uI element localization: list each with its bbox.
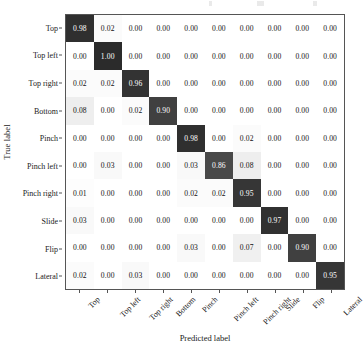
heatmap-cell-8-4: 0.03 bbox=[177, 234, 205, 261]
heatmap-cell-2-9: 0.00 bbox=[316, 70, 344, 97]
heatmap-cell-8-9: 0.00 bbox=[316, 234, 344, 261]
heatmap-cell-7-0: 0.03 bbox=[66, 207, 94, 234]
heatmap-cell-3-0: 0.08 bbox=[66, 97, 94, 124]
heatmap-cell-2-7: 0.00 bbox=[261, 70, 289, 97]
heatmap-cell-0-1: 0.02 bbox=[94, 15, 122, 42]
heatmap-cell-grid: 0.980.020.000.000.000.000.000.000.000.00… bbox=[66, 15, 344, 289]
heatmap-cell-8-2: 0.00 bbox=[122, 234, 150, 261]
heatmap-cell-0-3: 0.00 bbox=[149, 15, 177, 42]
heatmap-cell-1-2: 0.00 bbox=[122, 42, 150, 69]
heatmap-cell-0-5: 0.00 bbox=[205, 15, 233, 42]
heatmap-cell-1-1: 1.00 bbox=[94, 42, 122, 69]
x-tick-mark-7 bbox=[275, 290, 276, 293]
heatmap-cell-2-6: 0.00 bbox=[233, 70, 261, 97]
heatmap-cell-7-4: 0.00 bbox=[177, 207, 205, 234]
y-tick-mark-2 bbox=[59, 83, 62, 84]
heatmap-cell-1-0: 0.00 bbox=[66, 42, 94, 69]
heatmap-cell-5-7: 0.00 bbox=[261, 152, 289, 179]
heatmap-cell-5-3: 0.00 bbox=[149, 152, 177, 179]
heatmap-cell-4-3: 0.00 bbox=[149, 125, 177, 152]
x-tick-mark-2 bbox=[135, 290, 136, 293]
heatmap-cell-3-7: 0.00 bbox=[261, 97, 289, 124]
heatmap-cell-5-0: 0.00 bbox=[66, 152, 94, 179]
heatmap-cell-7-9: 0.00 bbox=[316, 207, 344, 234]
heatmap-cell-6-1: 0.00 bbox=[94, 179, 122, 206]
heatmap-cell-4-8: 0.00 bbox=[288, 125, 316, 152]
x-tick-mark-5 bbox=[219, 290, 220, 293]
heatmap-cell-6-6: 0.95 bbox=[233, 179, 261, 206]
heatmap-cell-9-1: 0.00 bbox=[94, 262, 122, 289]
x-tick-mark-4 bbox=[191, 290, 192, 293]
x-tick-mark-1 bbox=[107, 290, 108, 293]
heatmap-cell-4-1: 0.00 bbox=[94, 125, 122, 152]
heatmap-cell-4-0: 0.00 bbox=[66, 125, 94, 152]
x-tick-label-5: Pinch left bbox=[232, 295, 260, 323]
x-tick-label-8: Flip bbox=[311, 295, 326, 310]
heatmap-cell-6-4: 0.02 bbox=[177, 179, 205, 206]
y-tick-mark-1 bbox=[59, 55, 62, 56]
heatmap-cell-8-8: 0.90 bbox=[288, 234, 316, 261]
heatmap-cell-8-7: 0.00 bbox=[261, 234, 289, 261]
heatmap-cell-8-1: 0.00 bbox=[94, 234, 122, 261]
x-tick-mark-6 bbox=[247, 290, 248, 293]
y-tick-mark-4 bbox=[59, 138, 62, 139]
x-tick-label-1: Top left bbox=[118, 295, 142, 319]
heatmap-cell-7-6: 0.00 bbox=[233, 207, 261, 234]
cropped-title-artifact bbox=[195, 1, 345, 6]
heatmap-cell-1-6: 0.00 bbox=[233, 42, 261, 69]
heatmap-cell-3-8: 0.00 bbox=[288, 97, 316, 124]
heatmap-cell-9-2: 0.03 bbox=[122, 262, 150, 289]
heatmap-cell-0-6: 0.00 bbox=[233, 15, 261, 42]
heatmap-cell-2-3: 0.00 bbox=[149, 70, 177, 97]
heatmap-cell-9-8: 0.00 bbox=[288, 262, 316, 289]
y-tick-mark-8 bbox=[59, 248, 62, 249]
y-tick-mark-0 bbox=[59, 27, 62, 28]
x-tick-label-2: Top right bbox=[148, 295, 175, 322]
heatmap-cell-5-6: 0.08 bbox=[233, 152, 261, 179]
heatmap-cell-5-5: 0.86 bbox=[205, 152, 233, 179]
heatmap-cell-3-2: 0.02 bbox=[122, 97, 150, 124]
y-axis-tick-labels: TopTop leftTop rightBottomPinchPinch lef… bbox=[0, 14, 62, 290]
heatmap-cell-7-5: 0.00 bbox=[205, 207, 233, 234]
heatmap-cell-6-9: 0.00 bbox=[316, 179, 344, 206]
y-tick-mark-9 bbox=[59, 276, 62, 277]
heatmap-cell-9-7: 0.00 bbox=[261, 262, 289, 289]
heatmap-cell-5-4: 0.03 bbox=[177, 152, 205, 179]
heatmap-cell-1-7: 0.00 bbox=[261, 42, 289, 69]
heatmap-cell-7-1: 0.00 bbox=[94, 207, 122, 234]
heatmap-cell-9-5: 0.00 bbox=[205, 262, 233, 289]
heatmap-cell-7-2: 0.00 bbox=[122, 207, 150, 234]
heatmap-cell-1-3: 0.00 bbox=[149, 42, 177, 69]
heatmap-cell-3-6: 0.00 bbox=[233, 97, 261, 124]
heatmap-cell-1-5: 0.00 bbox=[205, 42, 233, 69]
x-tick-label-4: Pinch bbox=[200, 295, 219, 314]
heatmap-plot-area: 0.980.020.000.000.000.000.000.000.000.00… bbox=[65, 14, 345, 290]
heatmap-cell-1-9: 0.00 bbox=[316, 42, 344, 69]
y-tick-label-4: Pinch bbox=[0, 134, 58, 143]
heatmap-cell-0-8: 0.00 bbox=[288, 15, 316, 42]
heatmap-cell-2-2: 0.96 bbox=[122, 70, 150, 97]
heatmap-cell-3-4: 0.00 bbox=[177, 97, 205, 124]
heatmap-cell-4-7: 0.00 bbox=[261, 125, 289, 152]
heatmap-cell-8-6: 0.07 bbox=[233, 234, 261, 261]
y-tick-label-6: Pinch right bbox=[0, 189, 58, 198]
x-tick-label-9: Lateral bbox=[342, 295, 364, 317]
heatmap-cell-7-3: 0.00 bbox=[149, 207, 177, 234]
heatmap-cell-3-9: 0.00 bbox=[316, 97, 344, 124]
y-tick-label-7: Slide bbox=[0, 217, 58, 226]
heatmap-cell-6-8: 0.00 bbox=[288, 179, 316, 206]
heatmap-cell-2-0: 0.02 bbox=[66, 70, 94, 97]
heatmap-cell-0-0: 0.98 bbox=[66, 15, 94, 42]
heatmap-cell-2-5: 0.00 bbox=[205, 70, 233, 97]
heatmap-cell-4-4: 0.98 bbox=[177, 125, 205, 152]
heatmap-cell-9-6: 0.00 bbox=[233, 262, 261, 289]
heatmap-cell-3-1: 0.00 bbox=[94, 97, 122, 124]
heatmap-cell-4-6: 0.02 bbox=[233, 125, 261, 152]
y-tick-label-9: Lateral bbox=[0, 272, 58, 281]
heatmap-cell-6-0: 0.01 bbox=[66, 179, 94, 206]
y-tick-mark-6 bbox=[59, 193, 62, 194]
heatmap-cell-6-3: 0.00 bbox=[149, 179, 177, 206]
heatmap-cell-7-7: 0.97 bbox=[261, 207, 289, 234]
y-tick-label-5: Pinch left bbox=[0, 161, 58, 170]
